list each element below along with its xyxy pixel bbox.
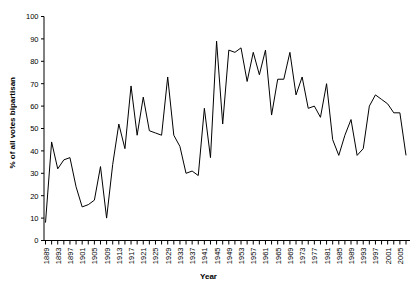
y-tick-label: 40 <box>30 147 38 156</box>
x-tick-label: 1989 <box>347 248 356 265</box>
x-axis-title-text: Year <box>200 272 217 281</box>
y-tick-label: 30 <box>30 169 38 178</box>
x-tick-label: 1913 <box>115 248 124 265</box>
x-tick-label: 1893 <box>54 248 63 265</box>
y-tick-label: 0 <box>34 236 38 245</box>
y-tick-label: 20 <box>30 192 38 201</box>
x-tick-label: 1889 <box>42 248 51 265</box>
x-tick-label: 1957 <box>249 248 258 265</box>
x-tick-label: 1969 <box>286 248 295 265</box>
x-tick-label: 2005 <box>396 248 405 265</box>
y-tick-label: 80 <box>30 57 38 66</box>
line-chart-plot: 0102030405060708090100188918931897190119… <box>0 0 417 293</box>
x-tick-label: 1981 <box>323 248 332 265</box>
x-tick-label: 2001 <box>384 248 393 265</box>
x-tick-label: 1929 <box>164 248 173 265</box>
x-tick-label: 1897 <box>66 248 75 265</box>
x-tick-label: 1905 <box>90 248 99 265</box>
y-tick-label: 60 <box>30 102 38 111</box>
x-tick-label: 1965 <box>274 248 283 265</box>
y-tick-label: 50 <box>30 124 38 133</box>
x-tick-label: 1949 <box>225 248 234 265</box>
x-tick-label: 1917 <box>127 248 136 265</box>
x-tick-label: 1937 <box>188 248 197 265</box>
x-tick-label: 1997 <box>371 248 380 265</box>
x-tick-label: 1945 <box>213 248 222 265</box>
data-series-line <box>46 41 407 222</box>
x-tick-label: 1933 <box>176 248 185 265</box>
x-tick-label: 1925 <box>151 248 160 265</box>
x-tick-label: 1993 <box>359 248 368 265</box>
y-tick-label: 90 <box>30 35 38 44</box>
x-tick-label: 1977 <box>310 248 319 265</box>
x-tick-label: 1909 <box>103 248 112 265</box>
y-tick-label: 10 <box>30 214 38 223</box>
x-tick-label: 1953 <box>237 248 246 265</box>
x-tick-label: 1961 <box>261 248 270 265</box>
x-axis-title: Year <box>0 272 417 281</box>
chart-figure: % of all votes bipartisan 01020304050607… <box>0 0 417 293</box>
x-tick-label: 1921 <box>139 248 148 265</box>
x-tick-label: 1985 <box>335 248 344 265</box>
y-tick-label: 100 <box>26 12 39 21</box>
x-tick-label: 1941 <box>200 248 209 265</box>
y-tick-label: 70 <box>30 80 38 89</box>
x-tick-label: 1901 <box>78 248 87 265</box>
x-tick-label: 1973 <box>298 248 307 265</box>
